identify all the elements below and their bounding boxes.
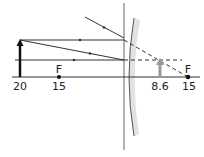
ray-center: [20, 40, 124, 60]
ray-direction-marker: [89, 52, 92, 55]
object-distance-label: 20: [13, 80, 27, 93]
focal-label-left: F: [56, 63, 62, 76]
ray-direction-marker: [79, 39, 82, 42]
ray-direction-marker: [103, 26, 106, 29]
focal-left-distance-label: 15: [52, 80, 66, 93]
focal-right-distance-label: 15: [182, 80, 196, 93]
ray-diagram: F F 20 15 8.6 15: [0, 0, 204, 157]
focal-label-right: F: [185, 63, 191, 76]
image-distance-label: 8.6: [151, 80, 169, 93]
ray-direction-marker: [73, 59, 76, 62]
